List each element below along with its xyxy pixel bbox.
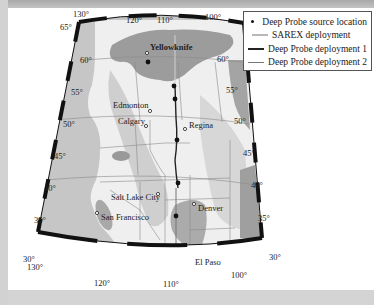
svg-text:50°: 50° — [234, 116, 246, 126]
line-swatch-icon — [248, 62, 264, 63]
city-edmonton: Edmonton — [113, 100, 149, 110]
city-yellowknife: Yellowknife — [150, 42, 193, 52]
svg-text:35°: 35° — [34, 215, 46, 225]
svg-text:30°: 30° — [269, 252, 281, 262]
svg-text:110°: 110° — [157, 15, 173, 25]
line-swatch-icon — [252, 34, 268, 36]
city-denver: Denver — [198, 203, 223, 213]
city-el-paso: El Paso — [195, 257, 221, 267]
dark-region-oregon — [112, 151, 130, 161]
city-calgary: Calgary — [118, 116, 146, 126]
svg-text:35°: 35° — [258, 213, 270, 223]
dot-icon — [251, 20, 254, 23]
svg-text:45°: 45° — [54, 151, 66, 161]
legend: Deep Probe source location SAREX deploym… — [243, 11, 372, 71]
svg-text:110°: 110° — [163, 279, 179, 289]
city-salt-lake-city: Salt Lake City — [111, 192, 161, 202]
legend-item-deployment-2: Deep Probe deployment 2 — [248, 56, 367, 70]
svg-text:55°: 55° — [71, 87, 83, 97]
svg-text:120°: 120° — [126, 15, 142, 25]
svg-text:40°: 40° — [251, 180, 263, 190]
svg-text:45°: 45° — [243, 148, 255, 158]
svg-text:100°: 100° — [231, 270, 247, 280]
legend-item-sarex: SAREX deployment — [248, 29, 367, 43]
svg-text:120°: 120° — [94, 278, 110, 288]
legend-item-deployment-1: Deep Probe deployment 1 — [248, 42, 367, 56]
line-swatch-icon — [248, 48, 264, 50]
legend-item-source-location: Deep Probe source location — [248, 15, 367, 29]
svg-text:55°: 55° — [226, 85, 238, 95]
svg-text:65°: 65° — [60, 22, 72, 32]
svg-text:100°: 100° — [205, 12, 221, 22]
svg-text:60°: 60° — [217, 54, 229, 64]
svg-text:130°: 130° — [73, 9, 89, 19]
city-san-francisco: San Francisco — [101, 212, 149, 222]
svg-text:50°: 50° — [63, 119, 75, 129]
svg-text:30°: 30° — [23, 254, 35, 264]
city-regina: Regina — [189, 120, 213, 130]
svg-text:40°: 40° — [44, 183, 56, 193]
svg-text:60°: 60° — [80, 55, 92, 65]
